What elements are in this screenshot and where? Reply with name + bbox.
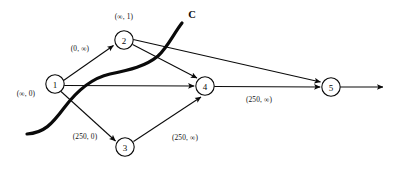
edge-4-to-5	[214, 87, 320, 88]
network-flow-diagram: 1 2 3 4 5 (∞, 0) (∞, 1) (0,	[0, 0, 394, 176]
edge-3-to-4-label: (250, ∞)	[172, 133, 199, 142]
edge-2-to-5	[133, 40, 320, 83]
node-1-annotation: (∞, 0)	[17, 89, 36, 98]
edge-1-to-3-label: (250, 0)	[73, 132, 98, 141]
edge-4-to-5-label: (250, ∞)	[246, 95, 273, 104]
node-2[interactable]: 2	[115, 31, 133, 49]
node-1-label: 1	[53, 80, 58, 90]
cut-c-label: C	[188, 9, 196, 20]
node-5[interactable]: 5	[322, 78, 340, 96]
node-3-label: 3	[123, 143, 128, 153]
diagram-canvas: 1 2 3 4 5 (∞, 0) (∞, 1) (0,	[0, 0, 394, 176]
edge-1-to-2-label: (0, ∞)	[71, 44, 90, 53]
node-5-label: 5	[329, 83, 334, 93]
node-1[interactable]: 1	[46, 75, 64, 93]
node-3[interactable]: 3	[116, 138, 134, 156]
node-2-annotation: (∞, 1)	[115, 12, 134, 21]
node-4-label: 4	[203, 82, 208, 92]
node-2-label: 2	[122, 36, 127, 46]
node-4[interactable]: 4	[196, 77, 214, 95]
